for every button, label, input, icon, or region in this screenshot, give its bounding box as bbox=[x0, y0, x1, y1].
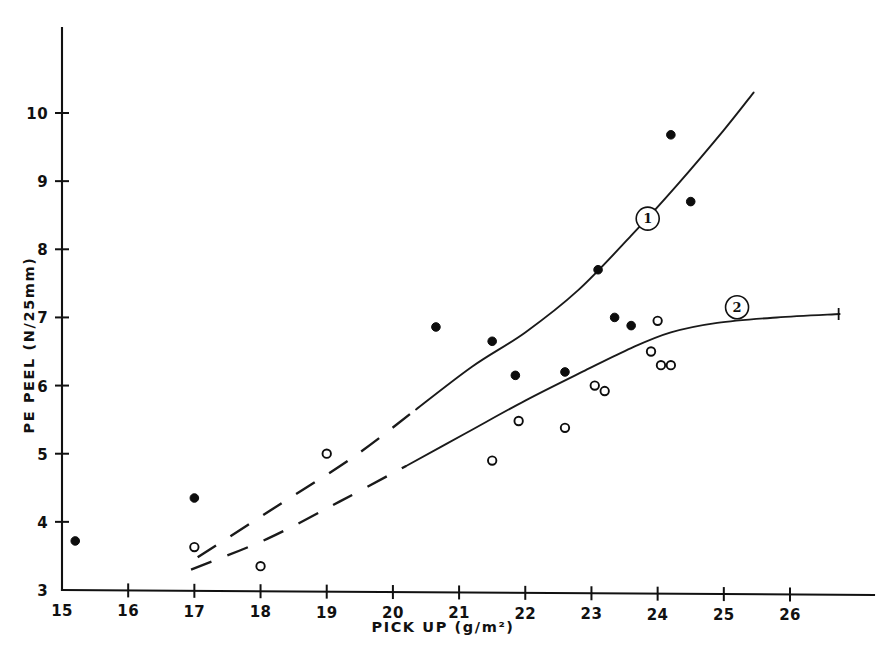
curve-2-solid-segment bbox=[406, 314, 839, 466]
data-point-series-2 bbox=[667, 361, 675, 369]
x-tick-label: 18 bbox=[250, 603, 272, 621]
data-point-series-2 bbox=[653, 317, 661, 325]
data-point-series-1 bbox=[667, 131, 676, 140]
data-point-series-1 bbox=[71, 537, 80, 546]
data-point-series-1 bbox=[190, 494, 199, 503]
data-point-series-2 bbox=[657, 361, 665, 369]
data-point-series-2 bbox=[600, 387, 608, 395]
x-axis-title: PICK UP (g/m²) bbox=[371, 619, 514, 635]
x-tick-label: 19 bbox=[316, 604, 338, 622]
data-point-series-1 bbox=[432, 323, 441, 332]
curve-badge-label-1: 1 bbox=[643, 211, 652, 226]
data-point-series-2 bbox=[591, 381, 599, 389]
x-tick-label: 23 bbox=[581, 605, 603, 623]
x-tick-label: 22 bbox=[514, 605, 536, 623]
data-point-series-1 bbox=[594, 265, 603, 274]
data-point-series-2 bbox=[190, 543, 198, 551]
data-point-series-1 bbox=[561, 368, 570, 377]
data-point-series-2 bbox=[256, 562, 264, 570]
data-point-series-1 bbox=[686, 197, 695, 206]
curve-2-dashed-segment bbox=[191, 466, 406, 570]
data-point-series-2 bbox=[323, 450, 331, 458]
curve-1-solid-segment bbox=[416, 93, 754, 410]
y-tick-label: 5 bbox=[37, 446, 48, 464]
x-tick-label: 15 bbox=[51, 602, 73, 620]
trend-curves bbox=[191, 93, 840, 570]
data-point-series-2 bbox=[647, 347, 655, 355]
scatter-plot: 151617181920212223242526 345678910 12 PI… bbox=[0, 0, 886, 649]
curve-1-dashed-segment bbox=[198, 409, 416, 557]
data-point-series-1 bbox=[511, 371, 520, 380]
x-tick-label: 24 bbox=[647, 606, 669, 624]
curve-badge-label-2: 2 bbox=[733, 300, 742, 315]
data-point-series-2 bbox=[561, 424, 569, 432]
y-tick-label: 4 bbox=[37, 514, 48, 532]
y-tick-label: 7 bbox=[37, 309, 48, 327]
chart-container: 151617181920212223242526 345678910 12 PI… bbox=[0, 0, 886, 649]
y-tick-label: 3 bbox=[37, 582, 48, 600]
y-axis-title: PE PEEL (N/25mm) bbox=[21, 257, 37, 434]
x-tick-label: 17 bbox=[184, 603, 206, 621]
data-point-series-2 bbox=[488, 456, 496, 464]
data-point-series-1 bbox=[627, 321, 636, 330]
x-tick-label: 16 bbox=[117, 602, 139, 620]
y-tick-label: 8 bbox=[37, 241, 48, 259]
x-tick-label: 26 bbox=[779, 606, 801, 624]
y-tick-label: 9 bbox=[37, 173, 48, 191]
x-axis-line bbox=[62, 590, 874, 595]
x-tick-label: 25 bbox=[713, 606, 735, 624]
data-point-series-2 bbox=[514, 417, 522, 425]
curve-labels: 12 bbox=[636, 207, 748, 319]
data-point-series-1 bbox=[610, 313, 619, 322]
y-tick-label: 6 bbox=[37, 378, 48, 396]
data-point-series-1 bbox=[488, 337, 497, 346]
data-points bbox=[71, 131, 695, 571]
axes-group bbox=[62, 28, 874, 595]
y-tick-label: 10 bbox=[26, 105, 48, 123]
